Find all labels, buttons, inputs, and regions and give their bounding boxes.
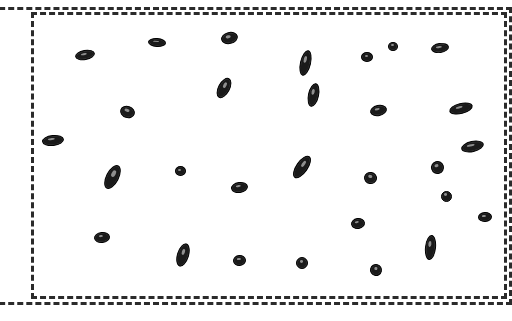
grain-object <box>478 212 493 223</box>
grain-object <box>448 100 474 116</box>
grain-object <box>93 231 110 244</box>
grain-object <box>290 153 315 181</box>
grain-object <box>296 257 308 269</box>
grain-object <box>423 234 437 260</box>
grain-object <box>148 37 167 47</box>
grain-object <box>232 254 246 266</box>
grain-object <box>74 48 95 61</box>
grain-object <box>430 42 449 54</box>
grain-object <box>219 30 238 46</box>
grain-object <box>100 162 123 191</box>
grain-object <box>460 138 485 154</box>
grain-object <box>214 75 235 100</box>
grain-object <box>297 49 314 77</box>
detection-canvas <box>0 0 512 321</box>
grain-object <box>174 242 192 268</box>
grain-object <box>305 82 321 108</box>
grain-object <box>363 171 378 185</box>
grain-object <box>230 180 248 193</box>
grain-object <box>369 103 388 117</box>
grain-object <box>118 104 136 120</box>
grain-object <box>369 263 384 278</box>
grain-object <box>361 52 373 62</box>
grain-object <box>175 166 186 176</box>
grain-layer <box>0 0 512 321</box>
grain-object <box>388 42 398 51</box>
grain-object <box>350 216 366 229</box>
grain-object <box>441 191 452 202</box>
grain-object <box>41 133 64 146</box>
grain-object <box>429 159 445 175</box>
